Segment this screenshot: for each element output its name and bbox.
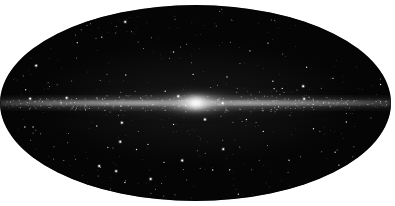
mollweide-sky-ellipse	[0, 5, 391, 201]
galactic-center-core	[181, 95, 211, 112]
all-sky-map-figure	[0, 0, 395, 206]
